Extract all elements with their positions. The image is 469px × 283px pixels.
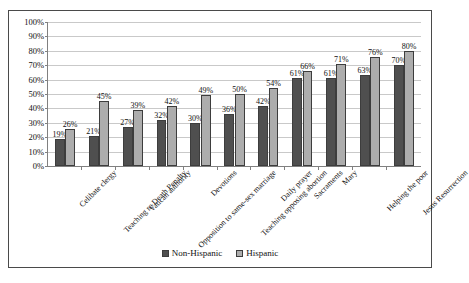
bar-group: 36%50% [218,22,252,166]
x-axis-category-labels: Celibate clergyTeaching re Death Penalty… [47,169,421,249]
bar: 71% [336,64,346,166]
bar: 61% [326,78,336,166]
y-axis-tick-mark [45,166,48,167]
bar: 36% [224,114,234,166]
bar: 32% [157,120,167,166]
legend-label: Non-Hispanic [172,249,223,258]
bar-value-label: 39% [131,102,146,110]
bar-series-container: 19%26%21%45%27%39%32%42%30%49%36%50%42%5… [48,22,421,166]
bar-group: 27%39% [116,22,150,166]
bar-group: 19%26% [48,22,82,166]
legend-item[interactable]: Hispanic [236,249,278,258]
bar-group: 70%80% [387,22,421,166]
chart-figure: 0%10%20%30%40%50%60%70%80%90%100% 19%26%… [8,10,432,268]
bar-value-label: 66% [300,63,315,71]
bar: 66% [303,71,313,166]
y-axis-tick-label: 90% [28,32,44,41]
bar: 19% [55,139,65,166]
y-axis-tick-label: 40% [28,104,44,113]
plot-area: 0%10%20%30%40%50%60%70%80%90%100% 19%26%… [47,22,421,167]
x-axis-category-label: Celibate clergy [78,169,118,209]
bar: 30% [190,123,200,166]
bar-group: 61%66% [285,22,319,166]
bar: 70% [394,65,404,166]
bar-group: 42%54% [251,22,285,166]
legend-label: Hispanic [246,249,278,258]
bar: 50% [235,94,245,166]
bar-group: 30%49% [184,22,218,166]
bar: 76% [370,57,380,166]
legend-swatch-icon [162,250,169,257]
bar: 45% [99,101,109,166]
bar-value-label: 42% [164,98,179,106]
bar-value-label: 80% [402,43,417,51]
bar-value-label: 26% [63,121,78,129]
chart-legend: Non-HispanicHispanic [9,249,431,258]
y-axis-tick-label: 30% [28,119,44,128]
bar-value-label: 76% [368,49,383,57]
y-axis-tick-label: 80% [28,47,44,56]
bar: 54% [269,88,279,166]
legend-swatch-icon [236,250,243,257]
bar: 80% [404,51,414,166]
bar-value-label: 49% [198,87,213,95]
x-axis-category-label: Devotions [210,169,239,198]
y-axis-tick-label: 50% [28,90,44,99]
x-axis-category-label: Vatican authority [148,169,192,213]
bar: 61% [292,78,302,166]
y-axis-tick-label: 20% [28,133,44,142]
y-axis-tick-label: 0% [33,162,44,171]
bar: 63% [360,75,370,166]
bar: 39% [133,110,143,166]
bar-value-label: 71% [334,56,349,64]
bar: 27% [123,127,133,166]
bar-value-label: 54% [266,80,281,88]
y-axis-tick-label: 70% [28,61,44,70]
bar: 26% [65,129,75,166]
bar-group: 21%45% [82,22,116,166]
bar: 42% [258,106,268,166]
bar-group: 32%42% [150,22,184,166]
x-axis-category-label: Jesus Resurrection [422,169,469,217]
bar-group: 63%76% [353,22,387,166]
bar-group: 61%71% [319,22,353,166]
y-axis-tick-label: 100% [24,18,44,27]
bar: 49% [201,95,211,166]
bar: 42% [167,106,177,166]
y-axis-tick-label: 60% [28,75,44,84]
x-axis-category-label: Mary [341,169,359,187]
y-axis-tick-label: 10% [28,147,44,156]
bar-value-label: 50% [232,86,247,94]
bar: 21% [89,136,99,166]
bar-value-label: 45% [97,93,112,101]
legend-item[interactable]: Non-Hispanic [162,249,223,258]
